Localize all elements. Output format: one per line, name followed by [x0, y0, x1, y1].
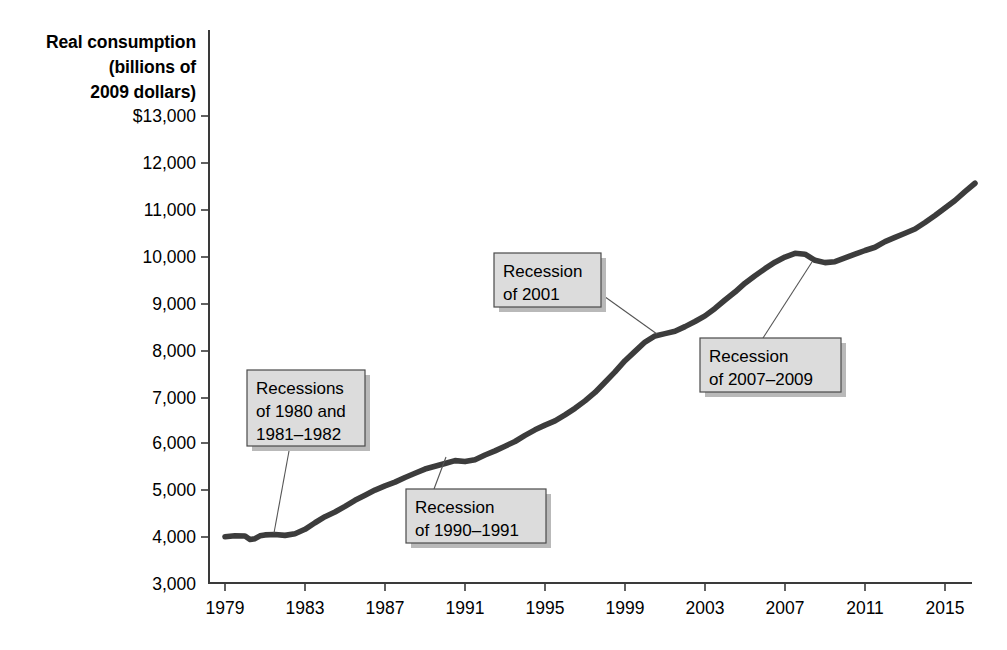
y-tick-label-12000: 12,000 [142, 153, 196, 173]
chart-canvas: Real consumption (billions of 2009 dolla… [0, 0, 1007, 650]
x-tick-label-1995: 1995 [526, 598, 565, 618]
callout-4-line-2: of 2007–2009 [709, 370, 813, 389]
y-tick-label-3000: 3,000 [152, 574, 196, 594]
callout-1-line-1: Recessions [256, 379, 344, 398]
leader-line-recessions-1980-1982 [274, 451, 289, 533]
consumption-line-chart: Real consumption (billions of 2009 dolla… [0, 0, 1007, 650]
y-axis-title-line-1: Real consumption [46, 32, 196, 52]
callout-1-line-3: 1981–1982 [256, 425, 341, 444]
y-tick-label-4000: 4,000 [152, 527, 196, 547]
callout-2-line-2: of 1990–1991 [415, 521, 519, 540]
x-tick-label-2003: 2003 [686, 598, 725, 618]
y-tick-label-9000: 9,000 [152, 294, 196, 314]
x-tick-label-1991: 1991 [446, 598, 485, 618]
x-tick-label-2007: 2007 [766, 598, 805, 618]
consumption-series-line [225, 183, 975, 539]
x-tick-label-1983: 1983 [286, 598, 325, 618]
y-tick-label-11000: 11,000 [144, 200, 196, 220]
callout-2-line-1: Recession [415, 498, 494, 517]
y-tick-label-6000: 6,000 [152, 433, 196, 453]
callout-4-line-1: Recession [709, 347, 788, 366]
callout-recession-2001[interactable]: Recession of 2001 [494, 253, 606, 312]
y-axis-title-line-3: 2009 dollars) [90, 82, 196, 102]
y-tick-label-5000: 5,000 [152, 480, 196, 500]
x-tick-label-1999: 1999 [606, 598, 645, 618]
callout-3-line-2: of 2001 [503, 285, 560, 304]
y-tick-label-7000: 7,000 [152, 388, 196, 408]
y-tick-label-10000: 10,000 [142, 247, 196, 267]
callout-recession-1990-1991[interactable]: Recession of 1990–1991 [406, 489, 551, 548]
leader-line-recession-1990-1991 [434, 457, 446, 489]
callout-recessions-1980-1982[interactable]: Recessions of 1980 and 1981–1982 [247, 370, 370, 451]
callout-1-line-2: of 1980 and [256, 402, 346, 421]
x-axis-tick-labels: 1979 1983 1987 1991 1995 1999 2003 2007 … [206, 598, 965, 618]
callout-recession-2007-2009[interactable]: Recession of 2007–2009 [700, 338, 846, 397]
y-axis-title-line-2: (billions of [109, 57, 197, 77]
x-axis-ticks [225, 583, 945, 591]
y-axis-title: Real consumption (billions of 2009 dolla… [46, 32, 196, 102]
y-axis-tick-labels: $13,000 12,000 11,000 10,000 9,000 8,000… [133, 106, 197, 594]
y-axis-ticks [201, 116, 209, 537]
x-tick-label-2015: 2015 [926, 598, 965, 618]
leader-line-recession-2007-2009 [763, 262, 812, 338]
y-tick-label-13000: $13,000 [133, 106, 197, 126]
x-tick-label-1987: 1987 [366, 598, 405, 618]
x-tick-label-1979: 1979 [206, 598, 245, 618]
callout-3-line-1: Recession [503, 262, 582, 281]
x-tick-label-2011: 2011 [846, 598, 884, 618]
y-tick-label-8000: 8,000 [152, 341, 196, 361]
